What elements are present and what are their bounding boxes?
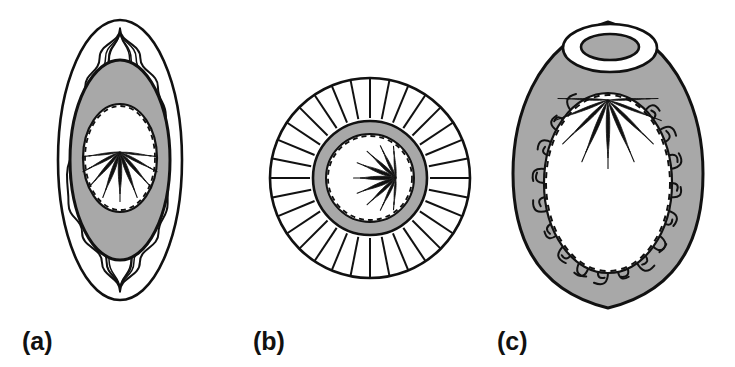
panel-b-spike-tail xyxy=(394,202,395,210)
figure-canvas: (a) (b) (c) xyxy=(0,0,735,367)
figure-container: (a) (b) (c) xyxy=(0,0,735,367)
panel-b-diagram xyxy=(270,78,470,278)
panel-c-ring-inner xyxy=(581,34,639,60)
panel-a-label: (a) xyxy=(22,327,53,355)
panel-a-diagram xyxy=(58,20,182,300)
panel-b-spike-tail xyxy=(394,146,395,154)
panel-c-label: (c) xyxy=(497,327,528,355)
panel-b-label: (b) xyxy=(253,327,285,355)
